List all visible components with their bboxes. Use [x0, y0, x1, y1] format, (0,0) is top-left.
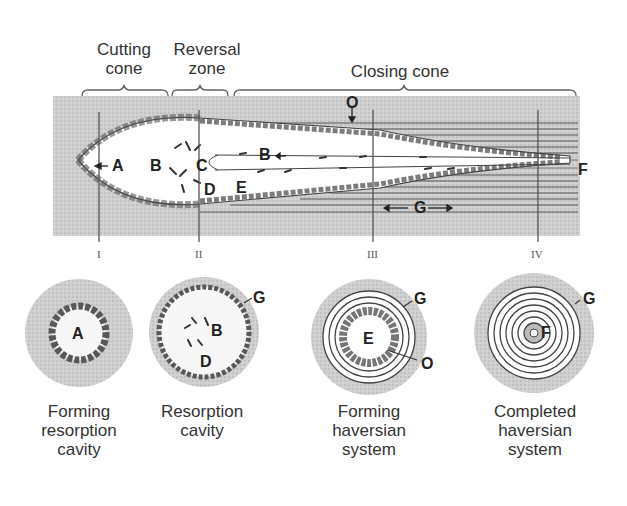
label-closing-cone: Closing cone	[330, 62, 470, 81]
caption-line: haversian	[480, 421, 590, 440]
caption-line: cavity	[147, 421, 257, 440]
section-marker-III: III	[367, 248, 378, 260]
cross-section-completed-haversian-system	[474, 273, 594, 393]
xs3-letter-E: E	[363, 330, 374, 348]
caption-forming-haversian-system: Forming haversian system	[314, 402, 424, 459]
xs4-letter-F: F	[541, 324, 551, 342]
label-closing-cone-line1: Closing cone	[330, 62, 470, 81]
label-reversal-zone: Reversal zone	[157, 40, 257, 78]
letter-D: D	[204, 181, 216, 199]
caption-line: Forming	[314, 402, 424, 421]
letter-E: E	[236, 179, 247, 197]
bracket-cutting-cone	[82, 85, 168, 96]
letter-B-reversal: B	[150, 157, 162, 175]
caption-line: Completed	[480, 402, 590, 421]
xs3-letter-O: O	[421, 355, 433, 373]
bracket-closing-cone	[234, 85, 576, 96]
xs2-letter-B: B	[211, 322, 223, 340]
section-marker-IV: IV	[531, 248, 543, 260]
letter-B-closing: B	[259, 146, 271, 164]
caption-line: Resorption	[147, 402, 257, 421]
bracket-reversal-zone	[172, 85, 228, 96]
section-marker-I: I	[97, 248, 101, 260]
caption-line: cavity	[24, 440, 134, 459]
letter-O: O	[346, 94, 358, 112]
letter-F: F	[578, 161, 588, 179]
caption-resorption-cavity: Resorption cavity	[147, 402, 257, 440]
xs4-letter-G: G	[583, 290, 595, 308]
caption-line: resorption	[24, 421, 134, 440]
label-reversal-zone-line2: zone	[157, 59, 257, 78]
letter-G: G	[414, 199, 426, 217]
caption-forming-resorption-cavity: Forming resorption cavity	[24, 402, 134, 459]
xs1-letter-A: A	[72, 325, 84, 343]
label-reversal-zone-line1: Reversal	[157, 40, 257, 59]
letter-C: C	[196, 157, 208, 175]
xs2-letter-G: G	[253, 289, 265, 307]
section-marker-II: II	[195, 248, 202, 260]
caption-line: system	[480, 440, 590, 459]
xs2-letter-D: D	[200, 353, 212, 371]
letter-A: A	[112, 157, 124, 175]
caption-line: Forming	[24, 402, 134, 421]
caption-line: haversian	[314, 421, 424, 440]
xs3-letter-G: G	[414, 290, 426, 308]
caption-line: system	[314, 440, 424, 459]
caption-completed-haversian-system: Completed haversian system	[480, 402, 590, 459]
